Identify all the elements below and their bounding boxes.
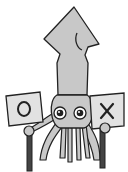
squid-mantle (44, 7, 99, 95)
squid-illustration (0, 0, 128, 172)
left-sign (6, 92, 43, 171)
